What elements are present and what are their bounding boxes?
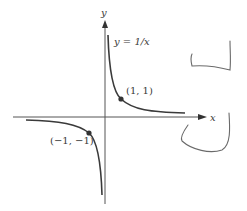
curve-label: y = 1/x — [113, 36, 150, 47]
point-1-1 — [118, 96, 123, 101]
hyperbola-graph: x y y = 1/x (1, 1) (−1, −1) — [0, 0, 247, 211]
handwritten-bracket-upper — [191, 41, 231, 70]
y-axis-label: y — [100, 7, 107, 18]
handwritten-cup-lower — [181, 113, 229, 152]
point-neg1-neg1-label: (−1, −1) — [50, 135, 94, 146]
point-1-1-label: (1, 1) — [126, 85, 153, 96]
y-axis — [102, 20, 108, 204]
x-axis-label: x — [210, 112, 216, 123]
x-axis-arrow-icon — [198, 114, 207, 120]
y-axis-arrow-icon — [102, 20, 108, 28]
x-axis — [13, 114, 207, 120]
